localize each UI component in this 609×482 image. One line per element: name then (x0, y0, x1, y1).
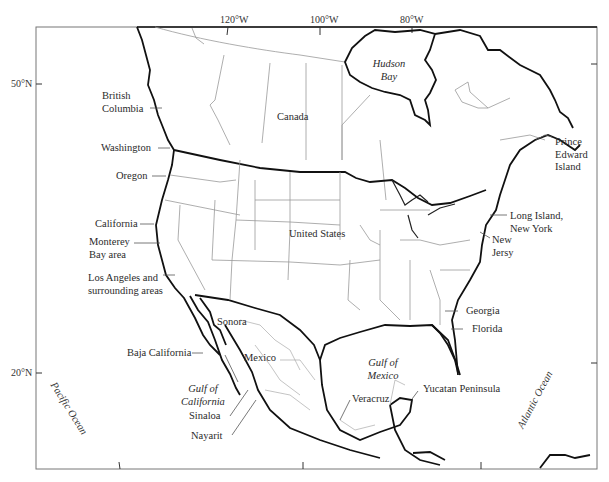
label-florida: Florida (472, 323, 502, 336)
label-pei-line1: Prince (555, 136, 588, 149)
label-pei-line2: Edward (555, 149, 588, 162)
label-washington: Washington (101, 142, 151, 155)
label-gulf-of-mexico-line2: Mexico (361, 370, 405, 383)
label-prince-edward-island: Prince Edward Island (555, 136, 588, 174)
label-monterey-bay: Monterey Bay area (89, 236, 130, 261)
label-gulf-of-mexico-line1: Gulf of (361, 357, 405, 370)
label-pei-line3: Island (555, 161, 588, 174)
label-veracruz: Veracruz (352, 393, 389, 406)
state-borders (165, 160, 470, 325)
label-british-columbia-line2: Columbia (102, 103, 143, 116)
label-hudson-bay-line1: Hudson (367, 58, 411, 71)
label-oregon: Oregon (116, 170, 148, 183)
label-monterey-line1: Monterey (89, 236, 130, 249)
label-california: California (95, 218, 138, 231)
label-baja-california: Baja California (127, 347, 191, 360)
label-british-columbia: British Columbia (102, 90, 143, 115)
latitude-label-50n: 50°N (11, 78, 32, 89)
latitude-label-20n: 20°N (11, 367, 32, 378)
label-gulf-of-california-line2: California (178, 396, 228, 409)
label-new-jersey-line1: New (492, 234, 514, 247)
label-hudson-bay: Hudson Bay (367, 58, 411, 83)
label-long-island-line1: Long Island, (510, 210, 563, 223)
label-long-island-line2: New York (510, 223, 563, 236)
label-new-jersey-line2: Jersy (492, 247, 514, 260)
label-gulf-of-california-line1: Gulf of (178, 383, 228, 396)
label-los-angeles-line2: surrounding areas (88, 285, 163, 298)
great-lakes (392, 180, 455, 238)
label-gulf-of-mexico: Gulf of Mexico (361, 357, 405, 382)
label-hudson-bay-line2: Bay (367, 71, 411, 84)
north-america-map: 120°W 100°W 80°W 50°N 20°N Canada United… (0, 0, 609, 482)
label-nayarit: Nayarit (191, 430, 223, 443)
label-yucatan-peninsula: Yucatan Peninsula (423, 383, 500, 396)
label-sonora: Sonora (217, 316, 247, 329)
longitude-label-120w: 120°W (220, 14, 248, 25)
label-los-angeles-line1: Los Angeles and (88, 272, 163, 285)
label-mexico: Mexico (244, 352, 276, 365)
longitude-label-80w: 80°W (400, 14, 423, 25)
label-sinaloa: Sinaloa (189, 410, 221, 423)
label-monterey-line2: Bay area (89, 249, 130, 262)
label-long-island: Long Island, New York (510, 210, 563, 235)
label-new-jersey: New Jersy (492, 234, 514, 259)
label-gulf-of-california: Gulf of California (178, 383, 228, 408)
label-british-columbia-line1: British (102, 90, 143, 103)
label-canada: Canada (277, 111, 309, 124)
label-georgia: Georgia (466, 305, 500, 318)
longitude-label-100w: 100°W (310, 14, 338, 25)
label-los-angeles: Los Angeles and surrounding areas (88, 272, 163, 297)
label-united-states: United States (289, 228, 345, 241)
